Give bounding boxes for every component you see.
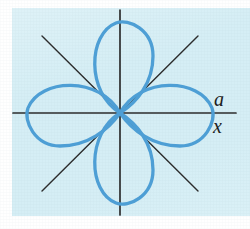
x-axis-label: x: [213, 116, 222, 136]
petal-top: [95, 22, 153, 113]
petal-right: [120, 85, 213, 146]
petal-left: [27, 85, 120, 146]
figure-root: a x: [0, 0, 250, 229]
amplitude-label-a: a: [214, 89, 224, 109]
petal-bottom: [95, 113, 153, 204]
